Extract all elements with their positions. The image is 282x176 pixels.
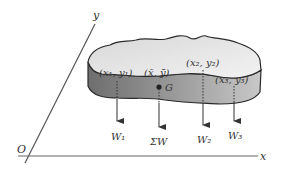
cog-diagram: y x O (x₁, y₁) (x̄, ȳ) (x₂, y₂) (x₃, y₃)…: [0, 0, 282, 176]
origin-label: O: [17, 143, 26, 156]
centroid-dot: [156, 84, 161, 89]
point-label-p3: (x₃, y₃): [215, 74, 249, 85]
y-axis-label: y: [92, 9, 100, 22]
weight-label-w3: W₃: [228, 130, 242, 141]
point-label-centroid: (x̄, ȳ): [144, 67, 170, 78]
x-axis-label: x: [260, 150, 267, 163]
centroid-point-label: G: [165, 82, 173, 93]
point-label-p1: (x₁, y₁): [99, 67, 133, 78]
weight-label-w1: W₁: [111, 131, 125, 142]
y-axis: [25, 24, 95, 163]
weight-label-sum: ΣW: [149, 136, 168, 147]
weight-label-w2: W₂: [197, 134, 211, 145]
point-label-p2: (x₂, y₂): [186, 57, 220, 68]
